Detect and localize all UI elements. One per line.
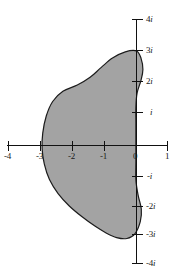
y-tick-label-neg-2i: -2i: [146, 202, 155, 211]
x-tick-label-neg4: -4: [4, 152, 11, 161]
x-tick-label-neg1: -1: [100, 152, 107, 161]
imaginary-unit-glyph: i: [150, 107, 152, 117]
y-tick-label-2i: 2i: [146, 77, 153, 86]
y-tick-label-neg-i: -i: [147, 172, 152, 181]
x-tick-label-1: 1: [165, 152, 169, 161]
x-tick-label-neg3: -3: [36, 152, 43, 161]
imaginary-unit-glyph: i: [150, 14, 152, 24]
y-tick-label-3i: 3i: [146, 46, 153, 55]
y-tick-label-i: i: [150, 108, 152, 117]
y-tick-label-neg-4i: -4i: [146, 259, 155, 268]
plot-canvas: [0, 0, 170, 280]
y-tick-label-neg-3i: -3i: [146, 230, 155, 239]
imaginary-unit-glyph: i: [153, 229, 155, 239]
x-tick-label-neg2: -2: [68, 152, 75, 161]
imaginary-unit-glyph: i: [150, 45, 152, 55]
shaded-region: [42, 50, 143, 238]
complex-plane-figure: -4 -3 -2 -1 0 1 4i 3i 2i i -i -2i -3i -4…: [0, 0, 170, 280]
imaginary-unit-glyph: i: [153, 201, 155, 211]
x-tick-label-0: 0: [133, 152, 137, 161]
imaginary-unit-glyph: i: [150, 171, 152, 181]
imaginary-unit-glyph: i: [150, 76, 152, 86]
y-tick-label-4i: 4i: [146, 15, 153, 24]
imaginary-unit-glyph: i: [153, 258, 155, 268]
